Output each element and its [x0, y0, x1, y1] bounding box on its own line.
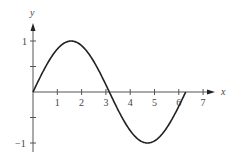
x-tick-label: 5: [152, 97, 157, 108]
x-axis-arrow-icon: [207, 90, 215, 95]
x-tick-label: 4: [128, 97, 133, 108]
y-tick-label: −1: [15, 138, 26, 149]
axes: [31, 23, 216, 152]
x-tick-label: 7: [201, 97, 206, 108]
x-tick-label: 1: [55, 97, 60, 108]
y-tick-label: 1: [22, 36, 27, 47]
x-tick-label: 2: [79, 97, 84, 108]
x-axis-label: x: [220, 86, 226, 97]
x-tick-label: 3: [103, 97, 108, 108]
sine-chart: 1234567−11 x y: [0, 0, 237, 158]
y-axis-label: y: [29, 7, 35, 18]
y-axis-arrow-icon: [31, 23, 36, 31]
